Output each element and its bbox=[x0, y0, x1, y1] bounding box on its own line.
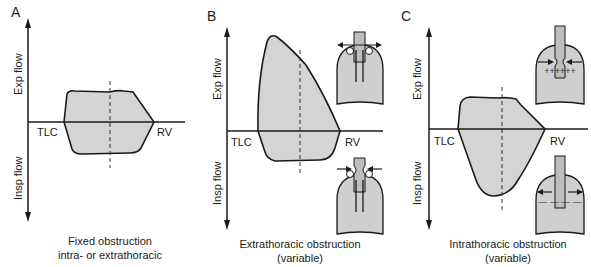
airway-inset-inspiration: — — — — bbox=[536, 156, 584, 234]
svg-text:++++++: ++++++ bbox=[544, 66, 576, 76]
arrow-up-icon bbox=[224, 27, 230, 37]
y-axis-label-insp: Insp flow bbox=[211, 162, 223, 205]
arrow-up-icon bbox=[25, 18, 31, 28]
arrow-down-icon bbox=[25, 212, 31, 222]
arrow-up-icon bbox=[426, 27, 432, 37]
caption-c: Intrathoracic obstruction (variable) bbox=[428, 237, 588, 265]
airway-inset-inspiration bbox=[337, 158, 383, 234]
y-axis-label-insp: Insp flow bbox=[411, 162, 423, 205]
y-axis-label-exp: Exp flow bbox=[211, 58, 223, 100]
panel-b: B bbox=[195, 0, 395, 267]
y-axis-label-exp: Exp flow bbox=[12, 53, 24, 95]
y-axis-label-exp: Exp flow bbox=[411, 58, 423, 100]
caption-a: Fixed obstruction intra- or extrathoraci… bbox=[30, 234, 190, 262]
x-label-tlc: TLC bbox=[231, 136, 252, 148]
flow-volume-loop-c: ++++++ — — — — bbox=[390, 0, 591, 267]
airway-inset-expiration: ++++++ bbox=[536, 26, 584, 104]
panel-a: A Exp flow Insp flow TLC RV Fixed obstru… bbox=[0, 0, 195, 267]
y-axis-label-insp: Insp flow bbox=[12, 157, 24, 200]
caption-b: Extrathoracic obstruction (variable) bbox=[220, 237, 380, 265]
arrow-down-icon bbox=[426, 220, 432, 230]
svg-text:— — — —: — — — — bbox=[538, 197, 582, 207]
x-label-tlc: TLC bbox=[37, 126, 58, 138]
panel-c: C ++++++ — — — — Exp flow Insp fl bbox=[390, 0, 591, 267]
arrow-down-icon bbox=[224, 220, 230, 230]
airway-inset-expiration bbox=[337, 32, 383, 104]
x-label-rv: RV bbox=[550, 135, 565, 147]
x-label-tlc: TLC bbox=[434, 135, 455, 147]
x-label-rv: RV bbox=[157, 126, 172, 138]
flow-volume-loop-b bbox=[195, 0, 395, 267]
x-label-rv: RV bbox=[345, 136, 360, 148]
